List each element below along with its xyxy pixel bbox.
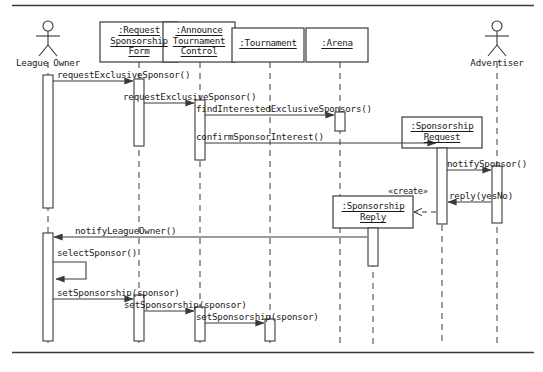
message-label-m8: notifyLeagueOwner() xyxy=(75,226,176,236)
message-label-m11: setSponsorship(sponsor) xyxy=(124,300,247,310)
message-label-m1: requestExclusiveSponsor() xyxy=(57,70,190,80)
object-label-line: Request xyxy=(402,132,482,143)
activation-league-owner-2 xyxy=(43,233,53,341)
message-label-m2: requestExclusiveSponsor() xyxy=(123,92,256,102)
object-label-sponsorship-reply: :Sponsorship Reply xyxy=(333,201,413,222)
message-label-m9: selectSponsor() xyxy=(57,248,137,258)
message-label-m10: setSponsorship(sponsor) xyxy=(57,288,180,298)
object-label-tournament: :Tournament xyxy=(232,38,304,49)
message-label-m5: notifySponsor() xyxy=(447,159,527,169)
activation-sponsorship-reply-1 xyxy=(368,228,378,266)
activation-tournament-1 xyxy=(265,319,275,341)
object-label-line: :Sponsorship xyxy=(402,121,482,132)
message-label-m7-create: «create» xyxy=(388,186,428,196)
activation-arena-1 xyxy=(335,112,345,131)
object-label-sponsorship-request: :Sponsorship Request xyxy=(402,121,482,142)
message-label-m6: reply(yesNo) xyxy=(449,191,513,201)
object-label-line: :Announce xyxy=(163,25,235,36)
activation-sponsorship-request-1 xyxy=(437,148,447,224)
actor-label-league-owner: League Owner xyxy=(8,57,88,68)
message-label-m12: setSponsorship(sponsor) xyxy=(196,312,319,322)
message-arrow-m9-self[interactable] xyxy=(53,262,86,279)
message-label-m3: findInterestedExclusiveSponsors() xyxy=(196,104,372,114)
object-label-line: :Sponsorship xyxy=(333,201,413,212)
object-label-line: :Arena xyxy=(306,38,368,49)
object-label-line: Reply xyxy=(333,212,413,223)
object-label-announce-tournament-control: :Announce Tournament Control xyxy=(163,25,235,57)
actor-label-advertiser: Advertiser xyxy=(457,57,537,68)
activation-league-owner-1 xyxy=(43,75,53,208)
activation-request-sponsorship-form-1 xyxy=(134,79,144,146)
object-label-line: Control xyxy=(163,46,235,57)
message-label-m4: confirmSponsorInterest() xyxy=(196,132,324,142)
object-label-line: :Tournament xyxy=(232,38,304,49)
object-label-arena: :Arena xyxy=(306,38,368,49)
actor-icon-advertiser xyxy=(485,21,509,56)
actor-icon-league-owner xyxy=(36,21,60,56)
